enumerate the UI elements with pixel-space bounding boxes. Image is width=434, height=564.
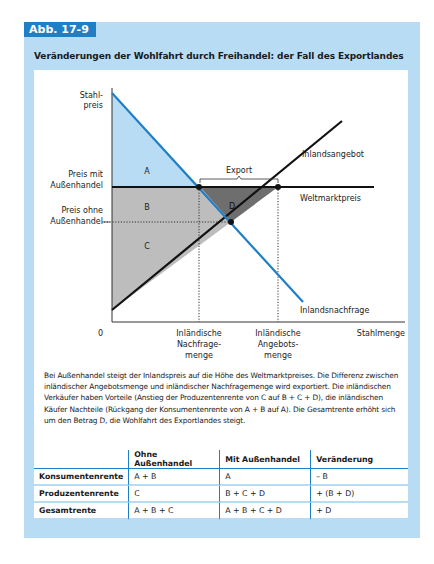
cell-without: C: [128, 486, 219, 503]
description-text: Bei Außenhandel steigt der Inlandspreis …: [44, 370, 404, 426]
welfare-diagram: Stahl- preis Preis mit Außenhandel Preis…: [0, 0, 434, 370]
qs-label-3: menge: [264, 351, 292, 360]
table-header-change: Veränderung: [310, 450, 408, 469]
qd-label: Inländische: [176, 329, 222, 338]
price-with-trade-label-2: Außenhandel: [50, 181, 103, 190]
qd-label-2: Nachfrage-: [177, 340, 221, 349]
origin-label: 0: [98, 329, 103, 338]
row-label: Konsumentenrente: [34, 469, 128, 486]
y-axis-label-2: preis: [83, 101, 103, 110]
table-header-empty: [34, 450, 128, 469]
table-row: Produzentenrente C B + C + D + (B + D): [34, 486, 408, 503]
supply-label: Inlandsangebot: [302, 150, 364, 159]
qd-label-3: menge: [185, 351, 213, 360]
point-qd-world: [196, 184, 202, 190]
area-d-label: D: [229, 202, 235, 211]
area-a-label: A: [144, 167, 150, 176]
table-header-with: Mit Außenhandel: [219, 450, 310, 469]
x-axis-label: Stahlmenge: [357, 329, 405, 338]
table-header-without: Ohne Außenhandel: [128, 450, 219, 469]
export-label: Export: [226, 166, 252, 175]
row-label: Produzentenrente: [34, 486, 128, 503]
price-with-trade-label: Preis mit: [68, 170, 103, 179]
cell-change: + D: [310, 503, 408, 520]
point-equilibrium: [228, 219, 234, 225]
cell-with: A: [219, 469, 310, 486]
area-b-label: B: [144, 203, 150, 212]
price-without-trade-label: Preis ohne: [61, 206, 103, 215]
table-row: Konsumentenrente A + B A – B: [34, 469, 408, 486]
cell-with: A + B + C + D: [219, 503, 310, 520]
qs-label-2: Angebots-: [258, 340, 299, 349]
row-label: Gesamtrente: [34, 503, 128, 520]
world-price-label: Weltmarktpreis: [300, 194, 361, 203]
area-bc: [112, 187, 231, 310]
cell-without: A + B + C: [128, 503, 219, 520]
table-header-row: Ohne Außenhandel Mit Außenhandel Verände…: [34, 450, 408, 469]
table-row: Gesamtrente A + B + C A + B + C + D + D: [34, 503, 408, 520]
cell-without: A + B: [128, 469, 219, 486]
price-without-trade-label-2: Außenhandel: [50, 217, 103, 226]
cell-change: – B: [310, 469, 408, 486]
cell-with: B + C + D: [219, 486, 310, 503]
area-c-label: C: [144, 242, 150, 251]
point-qs-world: [275, 184, 281, 190]
cell-change: + (B + D): [310, 486, 408, 503]
welfare-table: Ohne Außenhandel Mit Außenhandel Verände…: [34, 450, 408, 520]
y-axis-label: Stahl-: [80, 91, 103, 100]
qs-label: Inländische: [255, 329, 301, 338]
demand-label: Inlandsnachfrage: [300, 306, 369, 315]
